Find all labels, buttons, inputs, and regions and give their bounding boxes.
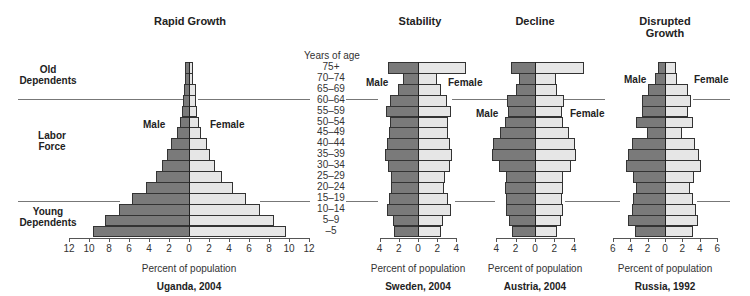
austria-male-bar: [512, 226, 536, 238]
age-label: 60–64: [301, 94, 361, 105]
sweden-male-label: Male: [366, 77, 388, 88]
x-tick-label: 4: [219, 243, 239, 254]
separator-young-uganda-left: [18, 201, 120, 202]
x-tick-label: 6: [119, 243, 139, 254]
austria-female-bar: [535, 226, 557, 238]
age-label: 35–39: [301, 148, 361, 159]
x-tick-label: 0: [179, 243, 199, 254]
x-tick: [682, 238, 683, 242]
x-tick: [613, 238, 614, 242]
x-tick-label: 2: [159, 243, 179, 254]
age-label: 50–54: [301, 116, 361, 127]
russia-caption: Russia, 1992: [615, 281, 715, 292]
age-label: 45–49: [301, 126, 361, 137]
label-young-dependents-1: Young: [18, 206, 78, 217]
sweden-female-label: Female: [448, 77, 482, 88]
uganda-male-bar: [93, 226, 190, 238]
sweden-female-bar: [418, 226, 441, 238]
x-tick: [665, 238, 666, 242]
x-tick-label: 4: [486, 243, 506, 254]
x-tick: [535, 238, 536, 242]
austria-caption: Austria, 2004: [485, 281, 585, 292]
separator-old-russia: [693, 99, 730, 100]
label-labor-force-2: Force: [22, 141, 82, 152]
russia-center-line: [665, 62, 666, 236]
age-label: –5: [301, 225, 361, 236]
x-tick-label: 10: [79, 243, 99, 254]
russia-female-bar: [665, 226, 693, 238]
uganda-xlabel: Percent of population: [119, 263, 259, 274]
age-label: 40–44: [301, 137, 361, 148]
russia-xlabel: Percent of population: [605, 263, 725, 274]
austria-xlabel: Percent of population: [475, 263, 595, 274]
age-label: 5–9: [301, 214, 361, 225]
x-tick-label: 12: [59, 243, 79, 254]
x-tick-label: 2: [389, 243, 409, 254]
x-tick-label: 4: [139, 243, 159, 254]
x-tick: [189, 238, 190, 242]
x-tick: [399, 238, 400, 242]
label-old-dependents-1: Old: [18, 64, 78, 75]
sweden-xlabel: Percent of population: [358, 263, 478, 274]
uganda-female-label: Female: [210, 119, 244, 130]
x-tick: [209, 238, 210, 242]
x-tick-label: 4: [564, 243, 584, 254]
x-tick: [648, 238, 649, 242]
x-tick: [269, 238, 270, 242]
title-rapid-growth: Rapid Growth: [130, 15, 250, 27]
uganda-male-label: Male: [143, 119, 165, 130]
x-tick-label: 4: [446, 243, 466, 254]
x-tick: [630, 238, 631, 242]
x-tick-label: 10: [279, 243, 299, 254]
x-tick: [149, 238, 150, 242]
austria-female-label: Female: [570, 108, 604, 119]
title-disrupted-line1: Disrupted: [620, 15, 710, 27]
x-tick: [437, 238, 438, 242]
age-label: 70–74: [301, 72, 361, 83]
sweden-male-bar: [394, 226, 419, 238]
x-tick: [717, 238, 718, 242]
x-tick: [229, 238, 230, 242]
x-tick: [574, 238, 575, 242]
x-tick-label: 2: [506, 243, 526, 254]
separator-young-russia: [697, 201, 730, 202]
title-disrupted-growth: Disrupted Growth: [620, 15, 710, 39]
x-tick: [249, 238, 250, 242]
x-tick-label: 2: [427, 243, 447, 254]
title-decline: Decline: [490, 15, 580, 27]
russia-female-label: Female: [694, 74, 728, 85]
label-young-dependents: Young Dependents: [18, 206, 78, 228]
label-labor-force: Labor Force: [22, 130, 82, 152]
age-label: 10–14: [301, 203, 361, 214]
years-of-age-label: Years of age: [297, 50, 367, 61]
sweden-center-line: [418, 62, 419, 236]
x-tick-label: 2: [544, 243, 564, 254]
uganda-center-line: [189, 62, 190, 236]
uganda-female-bar: [189, 226, 286, 238]
age-label: 30–34: [301, 159, 361, 170]
x-tick: [554, 238, 555, 242]
x-tick: [456, 238, 457, 242]
label-labor-force-1: Labor: [22, 130, 82, 141]
austria-center-line: [535, 62, 536, 236]
separator-young-austria: [565, 201, 620, 202]
x-tick: [109, 238, 110, 242]
x-tick: [309, 238, 310, 242]
x-tick-label: 4: [370, 243, 390, 254]
separator-old-uganda-right: [198, 99, 310, 100]
label-old-dependents: Old Dependents: [18, 64, 78, 86]
x-tick-label: 2: [199, 243, 219, 254]
age-label: 25–29: [301, 170, 361, 181]
x-tick-label: 6: [239, 243, 259, 254]
separator-young-sweden: [455, 201, 495, 202]
x-tick: [496, 238, 497, 242]
age-label: 65–69: [301, 83, 361, 94]
label-old-dependents-2: Dependents: [18, 75, 78, 86]
age-label: 55–59: [301, 105, 361, 116]
x-tick: [380, 238, 381, 242]
title-disrupted-line2: Growth: [620, 27, 710, 39]
x-tick-label: 8: [99, 243, 119, 254]
x-tick: [169, 238, 170, 242]
russia-male-label: Male: [624, 74, 646, 85]
x-tick: [89, 238, 90, 242]
